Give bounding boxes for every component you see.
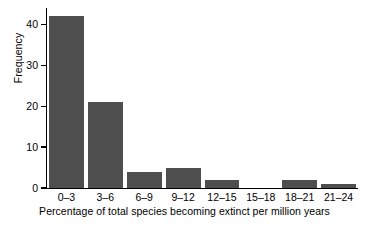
bar-slot <box>241 8 280 188</box>
y-axis-tick-label: 40 <box>0 19 38 29</box>
bar <box>127 172 162 188</box>
y-axis-tick-label: 30 <box>0 60 38 70</box>
x-axis-tick-label: 9–12 <box>164 192 203 203</box>
bar-slot <box>125 8 164 188</box>
bar-slot <box>319 8 358 188</box>
bar <box>205 180 240 188</box>
bar <box>282 180 317 188</box>
x-axis-tick-label: 18–21 <box>280 192 319 203</box>
y-axis-tick <box>41 187 46 188</box>
bar-chart-figure: Frequency 010203040 0–33–66–99–1212–1515… <box>0 0 369 227</box>
bar-slot <box>203 8 242 188</box>
bar <box>321 184 356 188</box>
x-axis-tick-label: 3–6 <box>86 192 125 203</box>
x-axis-title: Percentage of total species becoming ext… <box>0 205 369 217</box>
x-axis-tick-label: 0–3 <box>47 192 86 203</box>
bar <box>166 168 201 188</box>
bar-slot <box>280 8 319 188</box>
x-axis-tick-label: 21–24 <box>319 192 358 203</box>
y-axis-tick <box>41 146 46 147</box>
x-axis-line <box>46 188 358 189</box>
x-axis-tick-label: 12–15 <box>203 192 242 203</box>
x-axis-tick-label: 15–18 <box>241 192 280 203</box>
y-axis-tick <box>41 24 46 25</box>
y-axis-tick-label: 20 <box>0 101 38 111</box>
bar <box>88 102 123 188</box>
y-axis-tick-label: 10 <box>0 142 38 152</box>
bar-slot <box>47 8 86 188</box>
bar-slot <box>86 8 125 188</box>
bar <box>49 16 84 188</box>
bar-slot <box>164 8 203 188</box>
y-axis-tick-label: 0 <box>0 183 38 193</box>
y-axis-tick <box>41 106 46 107</box>
x-axis-tick-label: 6–9 <box>125 192 164 203</box>
plot-area <box>47 8 358 188</box>
y-axis-tick <box>41 65 46 66</box>
